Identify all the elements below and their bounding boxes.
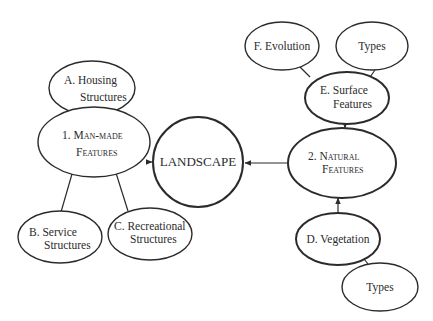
node-service-line1: B. Service xyxy=(29,226,77,238)
landscape-concept-diagram: A. Housing Structures 1. Man-made Featur… xyxy=(0,0,433,321)
node-evolution: F. Evolution xyxy=(245,22,319,70)
node-surface-types-label: Types xyxy=(358,40,386,53)
node-natural-features: 2. Natural Features xyxy=(288,128,396,198)
node-natural-line2: Features xyxy=(322,163,364,175)
node-surface-line2: Features xyxy=(333,98,372,110)
node-recreational-line2: Structures xyxy=(130,233,177,245)
node-service-line2: Structures xyxy=(44,239,91,251)
node-surface-types: Types xyxy=(336,22,408,70)
node-evolution-label: F. Evolution xyxy=(254,40,311,52)
node-manmade-line2: Features xyxy=(76,146,118,158)
node-service-structures: B. Service Structures xyxy=(18,211,102,263)
node-vegetation: D. Vegetation xyxy=(296,213,380,265)
edge-manmade-to-recreational xyxy=(116,173,128,211)
node-landscape-label: LANDSCAPE xyxy=(160,154,237,169)
node-surface-features: E. Surface Features xyxy=(305,72,389,124)
node-vegetation-types: Types xyxy=(342,263,418,311)
node-vegetation-types-label: Types xyxy=(366,281,394,294)
node-man-made-features: 1. Man-made Features xyxy=(38,107,150,177)
node-housing-line2: Structures xyxy=(80,91,127,103)
node-housing-line1: A. Housing xyxy=(64,74,117,87)
node-natural-line1: 2. Natural xyxy=(308,150,359,162)
node-vegetation-label: D. Vegetation xyxy=(306,233,369,246)
node-recreational-structures: C. Recreational Structures xyxy=(108,208,192,260)
node-landscape-center: LANDSCAPE xyxy=(153,117,243,207)
edge-manmade-to-service xyxy=(61,174,72,212)
node-manmade-line1: 1. Man-made xyxy=(62,129,123,141)
node-recreational-line1: C. Recreational xyxy=(114,220,186,232)
edge-evolution-to-surface xyxy=(300,67,310,77)
node-surface-line1: E. Surface xyxy=(320,84,368,96)
